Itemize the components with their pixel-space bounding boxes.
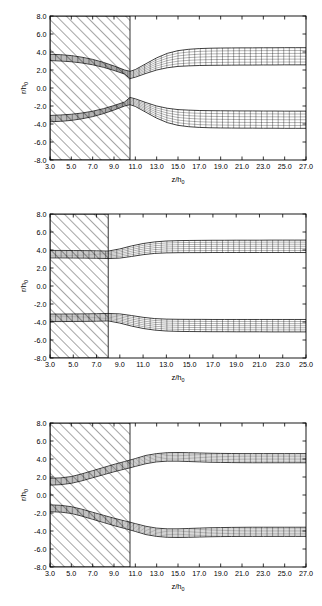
y-tick-label: 8.0 <box>37 419 47 428</box>
x-tick-label: 9.0 <box>109 162 119 171</box>
x-tick-label: 19.0 <box>214 569 228 578</box>
y-tick-label: 4.0 <box>37 455 47 464</box>
y-tick-label: 6.0 <box>37 30 47 39</box>
y-tick-label: 6.0 <box>37 228 47 237</box>
y-tick-label: -2.0 <box>34 300 46 309</box>
x-tick-label: 27.0 <box>299 162 313 171</box>
y-tick-label: 8.0 <box>37 12 47 21</box>
hatched-region <box>50 214 108 358</box>
x-tick-label: 23.0 <box>276 360 290 369</box>
x-tick-label: 13.0 <box>150 569 164 578</box>
x-tick-label: 13.0 <box>150 162 164 171</box>
y-tick-label: 0.0 <box>37 491 47 500</box>
x-tick-label: 5.0 <box>66 569 76 578</box>
y-tick-label: 2.0 <box>37 66 47 75</box>
y-axis-title: r/h0 <box>19 489 29 501</box>
hatched-region <box>50 423 130 567</box>
x-tick-label: 21.0 <box>235 569 249 578</box>
y-tick-label: 0.0 <box>37 282 47 291</box>
x-tick-label: 7.0 <box>92 360 102 369</box>
y-tick-label: -6.0 <box>34 138 46 147</box>
x-tick-label: 25.0 <box>278 162 292 171</box>
plot-panel-1: 3.05.07.09.011.013.015.017.019.021.023.0… <box>0 0 322 196</box>
y-tick-label: 6.0 <box>37 437 47 446</box>
y-tick-label: 2.0 <box>37 473 47 482</box>
x-tick-label: 3.0 <box>45 569 55 578</box>
y-tick-label: -2.0 <box>34 509 46 518</box>
x-tick-label: 3.0 <box>45 360 55 369</box>
x-tick-label: 21.0 <box>235 162 249 171</box>
y-axis-title: r/h0 <box>19 280 29 292</box>
y-tick-label: 4.0 <box>37 246 47 255</box>
x-axis-title: z/h0 <box>171 582 184 592</box>
x-tick-label: 11.0 <box>129 162 142 171</box>
x-tick-label: 19.0 <box>229 360 243 369</box>
x-tick-label: 11.0 <box>129 569 142 578</box>
x-tick-label: 9.0 <box>115 360 125 369</box>
y-tick-label: 2.0 <box>37 264 47 273</box>
x-tick-label: 21.0 <box>252 360 266 369</box>
y-axis-title: r/h0 <box>19 82 29 94</box>
plot-svg: 3.05.07.09.011.013.015.017.019.021.023.0… <box>0 404 322 606</box>
x-tick-label: 7.0 <box>88 162 98 171</box>
x-axis-title: z/h0 <box>171 175 184 185</box>
x-tick-label: 27.0 <box>299 569 313 578</box>
y-tick-label: 0.0 <box>37 84 47 93</box>
y-tick-label: -8.0 <box>34 354 46 363</box>
y-tick-label: -6.0 <box>34 336 46 345</box>
y-tick-label: -4.0 <box>34 318 46 327</box>
plot-svg: 3.05.07.09.011.013.015.017.019.021.023.0… <box>0 0 322 196</box>
x-tick-label: 17.0 <box>206 360 220 369</box>
x-tick-label: 13.0 <box>159 360 173 369</box>
y-tick-label: -8.0 <box>34 563 46 572</box>
y-tick-label: -8.0 <box>34 156 46 165</box>
x-tick-label: 23.0 <box>256 162 270 171</box>
x-tick-label: 25.0 <box>278 569 292 578</box>
hatched-region <box>50 16 130 160</box>
y-tick-label: -6.0 <box>34 545 46 554</box>
y-tick-label: 8.0 <box>37 210 47 219</box>
figure-container: 3.05.07.09.011.013.015.017.019.021.023.0… <box>0 0 322 606</box>
x-tick-label: 5.0 <box>68 360 78 369</box>
plot-panel-2: 3.05.07.09.011.013.015.017.019.021.023.0… <box>0 200 322 396</box>
plot-panel-3: 3.05.07.09.011.013.015.017.019.021.023.0… <box>0 404 322 606</box>
x-tick-label: 11.0 <box>136 360 149 369</box>
x-tick-label: 15.0 <box>171 569 185 578</box>
x-tick-label: 15.0 <box>171 162 185 171</box>
x-axis-title: z/h0 <box>171 373 184 383</box>
x-tick-label: 17.0 <box>192 569 206 578</box>
y-tick-label: -2.0 <box>34 102 46 111</box>
plot-svg: 3.05.07.09.011.013.015.017.019.021.023.0… <box>0 200 322 396</box>
x-tick-label: 19.0 <box>214 162 228 171</box>
x-tick-label: 17.0 <box>192 162 206 171</box>
x-tick-label: 3.0 <box>45 162 55 171</box>
x-tick-label: 5.0 <box>66 162 76 171</box>
x-tick-label: 7.0 <box>88 569 98 578</box>
y-tick-label: 4.0 <box>37 48 47 57</box>
x-tick-label: 15.0 <box>183 360 197 369</box>
x-tick-label: 23.0 <box>256 569 270 578</box>
y-tick-label: -4.0 <box>34 120 46 129</box>
y-tick-label: -4.0 <box>34 527 46 536</box>
x-tick-label: 9.0 <box>109 569 119 578</box>
x-tick-label: 25.0 <box>299 360 313 369</box>
